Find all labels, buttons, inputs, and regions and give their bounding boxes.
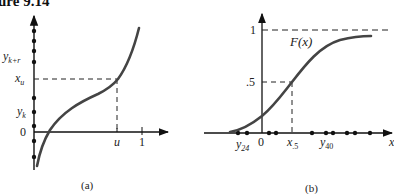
panel-b-label-half: .5 [246,75,255,89]
panel-b: F(x) 1 .5 y24 0 x.5 y40 x (b) [204,14,394,194]
panel-a-label-1: 1 [139,135,145,149]
panel-b-label-one: 1 [250,23,256,37]
panel-b-label-y24: y24 [235,137,249,153]
panel-a-inverse-cdf-curve [37,28,139,166]
panel-b-label-y40: y40 [319,135,333,151]
panel-a-caption: (a) [81,179,94,192]
panel-a: yk+r xu yk 0 u 1 (a) [2,16,168,192]
figure-title: ure 9.14 [0,0,49,10]
panel-b-label-xhalf: x.5 [286,135,298,151]
panel-b-label-x: x [388,135,394,149]
figure-canvas: yk+r xu yk 0 u 1 (a) [0,0,394,194]
panel-b-label-zero: 0 [258,135,264,149]
figure-9-14: ure 9.14 [0,0,394,194]
panel-a-label-yk-r: yk+r [2,49,21,65]
panel-a-label-yk: yk [16,104,26,120]
panel-b-curve-label: F(x) [289,34,312,49]
panel-a-label-xu: xu [14,71,24,87]
panel-a-label-zero: 0 [20,125,26,139]
panel-a-label-u: u [114,135,120,149]
panel-b-caption: (b) [305,182,318,194]
